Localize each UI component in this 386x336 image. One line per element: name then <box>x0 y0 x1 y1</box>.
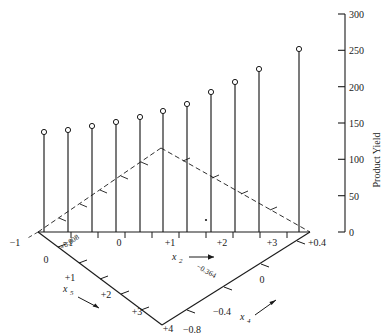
axis-x2-tick-label: +1 <box>165 237 176 248</box>
vertical-scale-tick-label: 300 <box>349 9 364 20</box>
stem <box>65 127 70 232</box>
stem <box>256 66 261 232</box>
vertical-scale-axis-title: Product Yield <box>371 133 382 188</box>
vertical-scale-axis: 300 250 200 150 100 50 0 Product Yield <box>338 9 382 238</box>
ridge-left-dashed <box>38 148 161 232</box>
axis-x4-tick-label: +0.4 <box>308 237 326 248</box>
axis-x2-arrow-icon <box>208 254 214 259</box>
plot-canvas: −1 −1 0 +1 +2 +3 +0.4 x 2 0 +1 +2 +3 +4 … <box>0 0 386 336</box>
vertical-scale-tick-label: 0 <box>349 227 354 238</box>
axis-x5-name: x <box>62 283 68 294</box>
vertical-scale-tick-label: 200 <box>349 82 364 93</box>
axis-x4-label: x 4 <box>239 300 276 325</box>
axis-x5-subscript: 5 <box>70 289 74 297</box>
axis-x2-tick-label: +3 <box>267 237 278 248</box>
stem <box>160 108 165 232</box>
ridge-left-annotation: +0.608 <box>58 232 81 251</box>
axis-x4-line <box>162 232 310 325</box>
ridge-right-annotation: −0.364 <box>195 262 218 280</box>
axis-x2-tick-label: 0 <box>117 237 122 248</box>
axis-x2-subscript: 2 <box>179 257 183 265</box>
axis-x4-subscript: 4 <box>247 317 251 325</box>
vertical-scale-tick-label: 100 <box>349 154 364 165</box>
axis-x4-tick-label: −0.4 <box>213 306 231 317</box>
axis-x4-ticks <box>187 241 305 313</box>
axis-x4-tick-label: −0.8 <box>183 324 201 335</box>
axis-x5-tick-label: +1 <box>65 272 76 283</box>
axis-x2-name: x <box>171 251 177 262</box>
stem <box>296 46 301 232</box>
ridge-right-ticks <box>183 158 277 210</box>
axis-x2-label: x 2 <box>171 251 214 265</box>
axis-x5-label: x 5 <box>62 283 99 308</box>
stem <box>113 119 118 232</box>
ridge-left-ticks <box>59 162 148 221</box>
axis-x5-arrow-icon <box>93 304 99 309</box>
vertical-scale-tick-label: 250 <box>349 45 364 56</box>
stem <box>137 114 142 232</box>
stem <box>208 89 213 232</box>
stem <box>89 123 94 232</box>
stem <box>41 129 46 232</box>
axis-x4-tick-label: 0 <box>260 274 265 285</box>
axis-x4-name: x <box>239 311 245 322</box>
ridge-left-stub <box>26 232 38 239</box>
axis-x2-tick-label: +2 <box>217 237 228 248</box>
vertical-scale-tick-label: 150 <box>349 118 364 129</box>
stem <box>232 79 237 232</box>
axis-x5-tick-label: +4 <box>163 323 174 334</box>
figure-3d-stem-plot: −1 −1 0 +1 +2 +3 +0.4 x 2 0 +1 +2 +3 +4 … <box>0 0 386 336</box>
floor-marker-dot <box>205 219 207 221</box>
axis-x2-ticks <box>71 232 287 238</box>
stem <box>184 101 189 232</box>
vertical-scale-tick-label: 50 <box>349 191 359 202</box>
axis-x5-tick-label: 0 <box>44 254 49 265</box>
axis-x5-tick-label: +3 <box>132 306 143 317</box>
axis-x5-tick-label: +2 <box>101 289 112 300</box>
axis-x2-tick-label: −1 <box>10 237 21 248</box>
